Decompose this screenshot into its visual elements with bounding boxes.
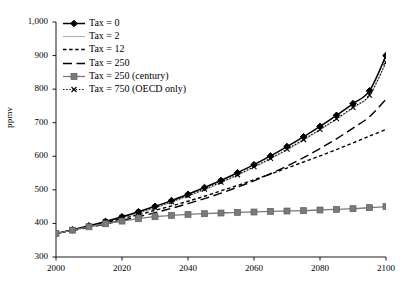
legend-item-3[interactable]: Tax = 250: [62, 56, 186, 69]
legend-label-1: Tax = 2: [89, 29, 120, 42]
x-axis-tick-2040: 2040: [166, 263, 210, 273]
legend-item-2[interactable]: Tax = 12: [62, 42, 186, 55]
legend-swatch-icon-5: [62, 82, 86, 95]
legend-item-0[interactable]: Tax = 0: [62, 16, 186, 29]
y-axis-tick-600: 600: [8, 150, 48, 160]
legend-label-5: Tax = 750 (OECD only): [89, 82, 186, 95]
x-axis-tick-2060: 2060: [232, 263, 276, 273]
legend-swatch-icon-4: [62, 69, 86, 82]
legend-swatch-icon-1: [62, 29, 86, 42]
x-axis-tick-2000: 2000: [34, 263, 78, 273]
x-axis-tick-2080: 2080: [298, 263, 342, 273]
y-axis-tick-500: 500: [8, 184, 48, 194]
legend-swatch-icon-3: [62, 56, 86, 69]
y-axis-tick-700: 700: [8, 117, 48, 127]
legend-swatch-icon-0: [62, 16, 86, 29]
y-axis-tick-400: 400: [8, 217, 48, 227]
y-axis-tick-300: 300: [8, 251, 48, 261]
y-axis-tick-1000: 1,000: [8, 16, 48, 26]
legend-label-3: Tax = 250: [89, 56, 130, 69]
legend-label-4: Tax = 250 (century): [89, 69, 169, 82]
legend-item-5[interactable]: Tax = 750 (OECD only): [62, 82, 186, 95]
legend-label-0: Tax = 0: [89, 16, 120, 29]
figure-container: ppmv 3004005006007008009001,000 20002020…: [0, 0, 407, 291]
legend-item-1[interactable]: Tax = 2: [62, 29, 186, 42]
chart-legend: Tax = 0Tax = 2Tax = 12Tax = 250Tax = 250…: [62, 16, 186, 95]
legend-label-2: Tax = 12: [89, 42, 125, 55]
legend-swatch-icon-2: [62, 42, 86, 55]
x-axis-tick-2020: 2020: [100, 263, 144, 273]
x-axis-tick-2100: 2100: [364, 263, 407, 273]
legend-item-4[interactable]: Tax = 250 (century): [62, 69, 186, 82]
y-axis-tick-800: 800: [8, 83, 48, 93]
y-axis-tick-900: 900: [8, 50, 48, 60]
